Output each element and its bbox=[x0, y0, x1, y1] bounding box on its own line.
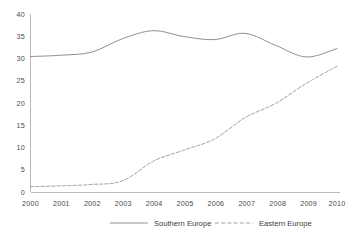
x-tick-label-2010: 2010 bbox=[329, 199, 346, 208]
series-line-southern-europe bbox=[31, 31, 338, 57]
chart-plot-svg: 40 35 30 25 20 15 10 5 0 2000 2001 2002 … bbox=[0, 0, 349, 241]
y-tick-label-40: 40 bbox=[17, 10, 25, 19]
x-tick-label-2007: 2007 bbox=[238, 199, 255, 208]
x-tick-label-2003: 2003 bbox=[115, 199, 132, 208]
y-tick-label-20: 20 bbox=[17, 99, 25, 108]
series-line-eastern-europe bbox=[31, 66, 338, 186]
x-tick-label-2001: 2001 bbox=[53, 199, 70, 208]
line-chart: 40 35 30 25 20 15 10 5 0 2000 2001 2002 … bbox=[0, 0, 349, 241]
y-tick-label-35: 35 bbox=[17, 32, 25, 41]
y-tick-label-10: 10 bbox=[17, 143, 25, 152]
y-tick-label-25: 25 bbox=[17, 76, 25, 85]
y-tick-label-30: 30 bbox=[17, 54, 25, 63]
x-tick-label-2008: 2008 bbox=[269, 199, 286, 208]
x-tick-label-2002: 2002 bbox=[84, 199, 101, 208]
x-tick-label-2009: 2009 bbox=[300, 199, 317, 208]
legend-label-eastern-europe: Eastern Europe bbox=[259, 219, 312, 228]
x-tick-label-2005: 2005 bbox=[177, 199, 194, 208]
y-tick-label-0: 0 bbox=[21, 188, 25, 197]
y-tick-label-5: 5 bbox=[21, 165, 25, 174]
x-tick-label-2004: 2004 bbox=[146, 199, 163, 208]
x-tick-label-2006: 2006 bbox=[208, 199, 225, 208]
y-tick-label-15: 15 bbox=[17, 121, 25, 130]
legend-label-southern-europe: Southern Europe bbox=[154, 219, 211, 228]
x-tick-label-2000: 2000 bbox=[22, 199, 39, 208]
